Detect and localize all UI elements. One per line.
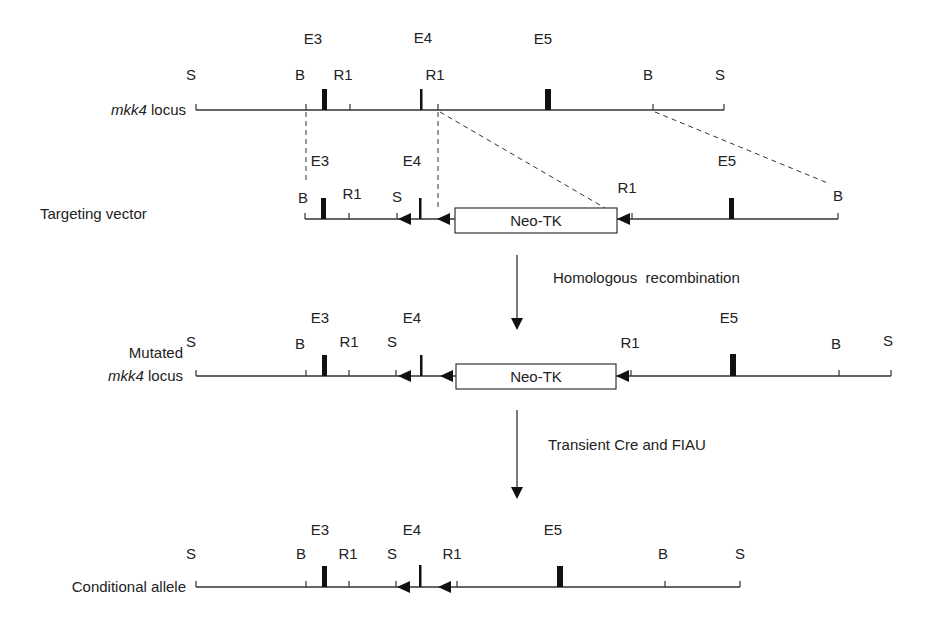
- site-s: S: [186, 66, 196, 83]
- site-r1: R1: [342, 185, 361, 202]
- exon-e3: [322, 89, 327, 110]
- site-s: S: [387, 333, 397, 350]
- gene-targeting-diagram: mkk4 locus S B R1 R1 B S E3 E4 E5 Target…: [0, 0, 927, 620]
- exon-e5: [557, 566, 563, 587]
- mutated-label-line2: mkk4 locus: [108, 367, 183, 384]
- down-arrow-icon: [511, 487, 523, 499]
- site-b: B: [833, 187, 843, 204]
- site-b: B: [658, 545, 668, 562]
- exon-label-e5: E5: [718, 152, 736, 169]
- site-b: B: [831, 335, 841, 352]
- step-label: Homologous recombination: [553, 269, 740, 286]
- loxp-arrow-icon: [440, 370, 453, 382]
- site-s: S: [735, 545, 745, 562]
- exon-label-e4: E4: [414, 29, 432, 46]
- site-s: S: [186, 545, 196, 562]
- site-s: S: [387, 545, 397, 562]
- exon-e3: [321, 198, 326, 219]
- site-r1: R1: [339, 333, 358, 350]
- site-b: B: [295, 66, 305, 83]
- loxp-arrow-icon: [616, 370, 629, 382]
- loxp-arrow-icon: [398, 213, 411, 225]
- site-b: B: [295, 335, 305, 352]
- site-b: B: [298, 189, 308, 206]
- wt-locus-row: mkk4 locus S B R1 R1 B S E3 E4 E5: [111, 29, 725, 118]
- exon-e5: [730, 354, 736, 376]
- mutated-label-line1: Mutated: [129, 344, 183, 361]
- exon-e4: [420, 89, 423, 110]
- targeting-vector-label: Targeting vector: [40, 205, 147, 222]
- exon-label-e5: E5: [720, 309, 738, 326]
- exon-label-e4: E4: [403, 152, 421, 169]
- site-r1: R1: [333, 66, 352, 83]
- loxp-arrow-icon: [437, 213, 450, 225]
- exon-e5: [545, 89, 551, 110]
- step-label: Transient Cre and FIAU: [548, 436, 706, 453]
- step-transient-cre-fiau: Transient Cre and FIAU: [511, 410, 706, 499]
- down-arrow-icon: [511, 318, 523, 330]
- loxp-arrow-icon: [397, 581, 410, 593]
- site-r1: R1: [425, 66, 444, 83]
- mutated-locus-row: Mutated mkk4 locus Neo-TK S B R1 S R1 B …: [108, 309, 893, 389]
- exon-label-e3: E3: [311, 521, 329, 538]
- homology-lines: [306, 112, 830, 210]
- cassette-label: Neo-TK: [510, 368, 562, 385]
- exon-label-e5: E5: [544, 521, 562, 538]
- site-r1: R1: [617, 179, 636, 196]
- exon-label-e3: E3: [304, 30, 322, 47]
- loxp-arrow-icon: [617, 213, 630, 225]
- exon-e4: [419, 565, 422, 587]
- site-s: S: [186, 333, 196, 350]
- exon-e3: [322, 566, 327, 587]
- site-r1: R1: [620, 334, 639, 351]
- exon-e4: [420, 355, 423, 376]
- site-s: S: [883, 332, 893, 349]
- loxp-arrow-icon: [398, 370, 411, 382]
- loxp-arrow-icon: [438, 581, 451, 593]
- site-s: S: [392, 188, 402, 205]
- step-homologous-recombination: Homologous recombination: [511, 255, 740, 330]
- conditional-allele-label: Conditional allele: [72, 578, 186, 595]
- site-b: B: [296, 545, 306, 562]
- exon-e3: [322, 355, 327, 376]
- exon-label-e4: E4: [403, 309, 421, 326]
- site-b: B: [643, 66, 653, 83]
- exon-e4: [419, 198, 422, 219]
- exon-label-e5: E5: [534, 30, 552, 47]
- site-r1: R1: [338, 545, 357, 562]
- wt-locus-label: mkk4 locus: [111, 101, 186, 118]
- exon-label-e3: E3: [311, 309, 329, 326]
- exon-e5: [729, 198, 734, 219]
- cassette-label: Neo-TK: [510, 212, 562, 229]
- exon-label-e3: E3: [311, 152, 329, 169]
- site-r1: R1: [442, 545, 461, 562]
- conditional-allele-row: Conditional allele S B R1 S R1 B S E3 E4…: [72, 521, 745, 595]
- targeting-vector-row: Targeting vector Neo-TK B R1 S R1 B E3 E…: [40, 152, 843, 233]
- exon-label-e4: E4: [403, 521, 421, 538]
- site-s: S: [715, 66, 725, 83]
